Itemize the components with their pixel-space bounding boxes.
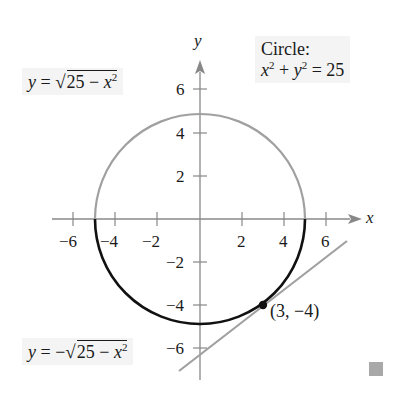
- x-tick-label: −2: [142, 233, 160, 250]
- circle-equation: x2 + y2 = 25: [261, 61, 344, 79]
- y-axis-arrow-icon: [195, 60, 205, 74]
- point-label: (3, −4): [270, 302, 319, 320]
- tangent-point: [259, 301, 267, 309]
- y-tick-label: −4: [166, 297, 184, 314]
- x-tick-label: 4: [279, 233, 288, 250]
- x-tick-label: 2: [237, 233, 246, 250]
- y-tick-label: −2: [166, 254, 184, 271]
- y-axis-label: y: [194, 32, 202, 49]
- x-axis-label: x: [366, 209, 374, 226]
- x-axis-arrow-icon: [348, 214, 362, 224]
- y-tick-label: 4: [176, 125, 185, 142]
- y-tick-label: −6: [166, 340, 184, 357]
- upper-function-label: y = √25 − x2: [22, 68, 123, 95]
- circle-equation-box: Circle: x2 + y2 = 25: [255, 36, 350, 83]
- y-tick-label: 2: [176, 168, 185, 185]
- gray-square-icon: [369, 362, 383, 376]
- lower-function-label: y = −√25 − x2: [22, 338, 133, 365]
- y-tick-label: 6: [176, 81, 185, 98]
- x-tick-label: 6: [321, 233, 330, 250]
- x-tick-label: −6: [59, 233, 77, 250]
- x-tick-label: −4: [100, 233, 118, 250]
- circle-title: Circle:: [261, 40, 344, 58]
